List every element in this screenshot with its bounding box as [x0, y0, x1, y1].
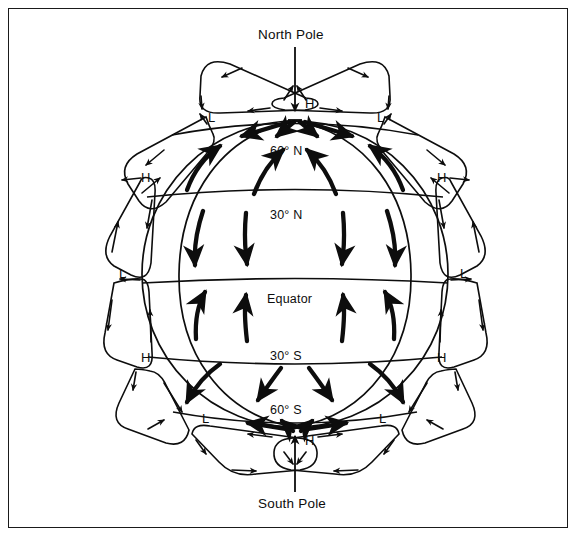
flow-polar-nw-down [201, 96, 202, 109]
label-l-equator-right: L [460, 266, 467, 281]
label-latitude-30s: 30° S [270, 349, 302, 363]
trade-n-2 [245, 213, 247, 264]
flow-polar-se-bottom [334, 470, 358, 471]
globe-outline [142, 121, 448, 427]
meridian-edges [179, 121, 411, 427]
flow-ferrel-sw-in [148, 420, 164, 429]
surface-wind-arrows [187, 122, 403, 431]
label-h-south-30-right: H [437, 350, 447, 365]
flow-ferrel-se-in [427, 420, 443, 429]
pole-tick-marks [288, 120, 302, 428]
flow-polar-nw-bottom [248, 108, 270, 111]
flow-ferrel-nw-out [146, 150, 164, 165]
label-latitude-equator: Equator [267, 292, 312, 306]
westerly-s-3 [309, 368, 332, 400]
flow-polar-s-up-right [284, 452, 293, 464]
cell-loop-polar-sw [192, 425, 317, 474]
trade-n-3 [342, 213, 344, 264]
flow-ferrel-se-out [409, 383, 427, 412]
trade-s-1 [196, 292, 205, 339]
label-north-pole: North Pole [258, 27, 324, 42]
flow-ferrel-sw-up [133, 372, 136, 390]
cell-loop-polar-ne [272, 62, 390, 113]
westerly-n-3 [307, 150, 336, 194]
trade-s-3 [342, 295, 344, 341]
flow-polar-ne-top [348, 68, 368, 77]
flow-polar-sw-bottom [232, 470, 256, 471]
latitude-line-30n [147, 190, 443, 198]
label-latitude-60s: 60° S [270, 403, 302, 417]
label-l-north-60-right: L [377, 110, 384, 125]
trade-n-1 [195, 211, 203, 265]
label-l-equator-left: L [119, 266, 126, 281]
trade-s-2 [245, 295, 247, 341]
flow-ferrel-ne-out [427, 150, 445, 165]
flow-polar-ne-down [388, 96, 389, 109]
flow-polar-nw-top [222, 68, 242, 77]
flow-hadley-se-up [440, 310, 441, 342]
label-h-north-30-right: H [437, 170, 447, 185]
label-latitude-30n: 30° N [270, 208, 302, 222]
flow-ferrel-se-up [455, 372, 458, 390]
label-l-south-60-left: L [202, 411, 209, 426]
label-latitude-60n: 60° N [270, 144, 302, 158]
cell-loop-polar-nw [200, 62, 318, 113]
latitude-line-equator [142, 279, 448, 284]
flow-polar-s-up-left [297, 452, 306, 464]
label-l-north-60-left: L [208, 110, 215, 125]
label-h-south-pole: H [305, 433, 315, 448]
flow-polar-ne-bottom [320, 108, 342, 111]
label-l-south-60-right: L [379, 411, 386, 426]
trade-n-4 [387, 211, 395, 265]
trade-s-4 [385, 292, 394, 339]
circulation-diagram-svg [0, 0, 578, 543]
westerly-s-2 [258, 368, 281, 400]
label-h-north-30-left: H [141, 170, 151, 185]
label-h-north-pole: H [305, 96, 315, 111]
latitude-lines [142, 124, 448, 424]
flow-hadley-sw-up [150, 310, 151, 342]
diagram-canvas: North Pole South Pole 60° N 30° N Equato… [0, 0, 578, 543]
flow-ferrel-sw-out [164, 383, 182, 412]
label-h-south-30-left: H [141, 350, 151, 365]
label-south-pole: South Pole [258, 496, 326, 511]
